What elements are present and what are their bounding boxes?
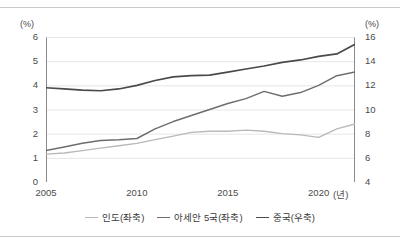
right-tick-label: 4 [365, 176, 385, 187]
legend-item[interactable]: 아세안 5국(좌축) [157, 210, 242, 224]
right-tick-label: 8 [365, 128, 385, 139]
chart-figure: (%) (%) 6543210 16141210864 200520102015… [0, 0, 400, 251]
left-tick-label: 0 [22, 176, 38, 187]
left-tick-label: 3 [22, 104, 38, 115]
bottom-divider [0, 236, 400, 237]
x-tick-label: 2010 [117, 187, 157, 198]
right-tick-label: 14 [365, 55, 385, 66]
legend-label: 아세안 5국(좌축) [174, 210, 242, 224]
right-axis-unit-label: (%) [365, 19, 379, 29]
left-tick-label: 6 [22, 31, 38, 42]
series-line [46, 124, 355, 154]
legend-swatch-icon [157, 217, 170, 218]
legend-item[interactable]: 중국(우축) [256, 210, 315, 224]
x-tick-label: 2015 [208, 187, 248, 198]
legend-label: 인도(좌축) [102, 210, 144, 224]
legend-label: 중국(우축) [273, 210, 315, 224]
right-tick-label: 10 [365, 104, 385, 115]
plot-area [46, 37, 355, 182]
legend-item[interactable]: 인도(좌축) [85, 210, 144, 224]
legend-swatch-icon [85, 217, 98, 218]
top-divider [0, 7, 400, 8]
chart-legend: 인도(좌축)아세안 5국(좌축)중국(우축) [0, 210, 400, 224]
left-axis-unit-label: (%) [20, 19, 34, 29]
x-tick-label: 2005 [26, 187, 66, 198]
right-tick-label: 6 [365, 152, 385, 163]
left-tick-label: 4 [22, 79, 38, 90]
series-line [46, 72, 355, 151]
series-line [46, 44, 355, 91]
left-tick-label: 1 [22, 152, 38, 163]
right-tick-label: 16 [365, 31, 385, 42]
right-tick-label: 12 [365, 79, 385, 90]
left-tick-label: 2 [22, 128, 38, 139]
x-axis-unit-label: (년) [333, 187, 348, 201]
legend-swatch-icon [256, 217, 269, 218]
left-tick-label: 5 [22, 55, 38, 66]
